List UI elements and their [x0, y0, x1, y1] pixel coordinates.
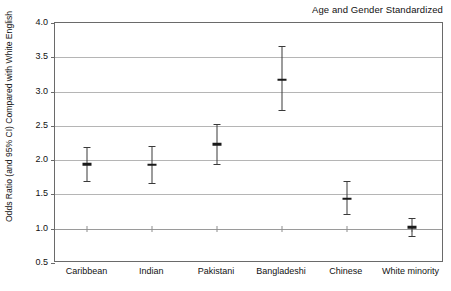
reference-tick [217, 226, 218, 232]
errorbar-cap-lower-white-minority [408, 236, 415, 237]
y-tick-mark [51, 57, 55, 58]
x-tick-label-indian: Indian [139, 266, 164, 276]
data-point-indian [148, 164, 157, 167]
y-tick-mark [51, 126, 55, 127]
errorbar-cap-upper-bangladeshi [278, 46, 285, 47]
errorbar-cap-upper-white-minority [408, 218, 415, 219]
gridline-2.0 [55, 160, 442, 161]
y-tick-label: 4.0 [8, 17, 48, 27]
gridline-3.0 [55, 92, 442, 93]
errorbar-cap-upper-chinese [343, 181, 350, 182]
y-tick-mark [51, 229, 55, 230]
reference-tick [281, 226, 282, 232]
data-point-chinese [342, 197, 351, 200]
data-point-caribbean [83, 163, 92, 166]
y-tick-mark [51, 160, 55, 161]
errorbar-cap-upper-pakistani [214, 124, 221, 125]
y-tick-label: 3.0 [8, 86, 48, 96]
chart-title: Age and Gender Standardized [312, 4, 443, 15]
y-tick-label: 1.0 [8, 223, 48, 233]
reference-tick [152, 226, 153, 232]
data-point-bangladeshi [277, 79, 286, 82]
errorbar-cap-upper-caribbean [84, 147, 91, 148]
reference-tick [87, 226, 88, 232]
x-tick-label-pakistani: Pakistani [198, 266, 235, 276]
y-tick-label: 2.0 [8, 154, 48, 164]
errorbar-cap-lower-chinese [343, 214, 350, 215]
chart-figure: Age and Gender Standardized Odds Ratio (… [0, 0, 451, 291]
y-tick-label: 3.5 [8, 51, 48, 61]
y-tick-label: 1.5 [8, 188, 48, 198]
x-tick-label-bangladeshi: Bangladeshi [256, 266, 306, 276]
plot-area [54, 22, 443, 262]
reference-tick [346, 226, 347, 232]
x-tick-label-chinese: Chinese [329, 266, 362, 276]
errorbar-cap-lower-indian [149, 183, 156, 184]
gridline-3.5 [55, 57, 442, 58]
errorbar-cap-upper-indian [149, 146, 156, 147]
gridline-1.5 [55, 194, 442, 195]
data-point-white-minority [407, 226, 416, 229]
gridline-2.5 [55, 126, 442, 127]
y-tick-mark [51, 23, 55, 24]
x-tick-label-caribbean: Caribbean [66, 266, 108, 276]
data-point-pakistani [213, 143, 222, 146]
y-tick-mark [51, 263, 55, 264]
y-tick-label: 0.5 [8, 257, 48, 267]
y-tick-mark [51, 194, 55, 195]
errorbar-cap-lower-bangladeshi [278, 110, 285, 111]
errorbar-cap-lower-pakistani [214, 164, 221, 165]
gridline-1.0 [55, 229, 442, 230]
y-tick-mark [51, 92, 55, 93]
x-tick-label-white-minority: White minority [382, 266, 439, 276]
y-tick-label: 2.5 [8, 120, 48, 130]
errorbar-cap-lower-caribbean [84, 181, 91, 182]
